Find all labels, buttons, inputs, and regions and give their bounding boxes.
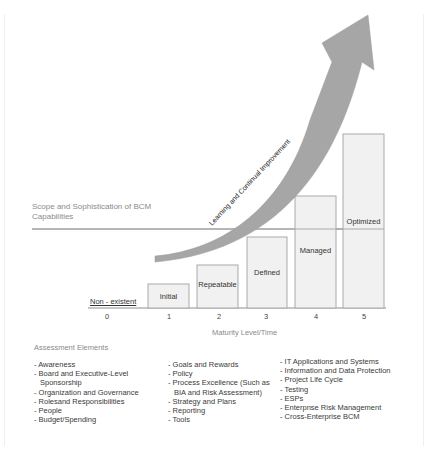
list-item: - Organization and Governance bbox=[34, 388, 139, 397]
list-item: - Project Life Cycle bbox=[280, 375, 390, 384]
list-item: Sponsorship bbox=[34, 378, 139, 387]
y-axis-label: Scope and Sophistication of BCM Capabili… bbox=[32, 202, 152, 222]
list-item: - Board and Executive-Level bbox=[34, 369, 139, 378]
arrow-label: Learning and Continual Improvement bbox=[208, 138, 292, 228]
list-item: - Process Excellence (Such as bbox=[168, 378, 270, 387]
improvement-arrow-icon bbox=[155, 15, 374, 262]
level-3-label: Defined bbox=[247, 268, 287, 277]
tick-2: 2 bbox=[213, 312, 225, 321]
tick-3: 3 bbox=[260, 312, 272, 321]
list-item: - Cross-Enterprise BCM bbox=[280, 412, 390, 421]
tick-4: 4 bbox=[310, 312, 322, 321]
list-item: - Enterpnse Risk Management bbox=[280, 403, 390, 412]
list-item: - IT Applications and Systems bbox=[280, 357, 390, 366]
x-axis-label: Maturity Level/Time bbox=[212, 328, 277, 337]
list-item: - People bbox=[34, 406, 139, 415]
list-item: - Reporting bbox=[168, 406, 270, 415]
list-item: - ESPs bbox=[280, 394, 390, 403]
level-5-label: Optimized bbox=[343, 217, 384, 226]
tick-0: 0 bbox=[101, 312, 113, 321]
tick-1: 1 bbox=[163, 312, 175, 321]
assessment-title: Assessment Elements bbox=[34, 343, 108, 352]
tick-5: 5 bbox=[358, 312, 370, 321]
list-item: - Budget/Spending bbox=[34, 415, 139, 424]
list-item: - Awareness bbox=[34, 360, 139, 369]
list-item: - Goals and Rewards bbox=[168, 360, 270, 369]
assessment-column-2: - Goals and Rewards - Policy - Process E… bbox=[168, 360, 270, 424]
assessment-column-1: - Awareness - Board and Executive-Level … bbox=[34, 360, 139, 424]
level-1-label: Initial bbox=[148, 292, 189, 301]
list-item: - Policy bbox=[168, 369, 270, 378]
list-item: - Information and Data Protection bbox=[280, 366, 390, 375]
level-2-label: Repeatable bbox=[197, 280, 238, 289]
list-item: - Tools bbox=[168, 415, 270, 424]
list-item: - Testing bbox=[280, 385, 390, 394]
list-item: - Rolesand Responsibilities bbox=[34, 397, 139, 406]
level-0-label: Non - existent bbox=[90, 297, 136, 306]
list-item: - Strategy and Plans bbox=[168, 397, 270, 406]
assessment-column-3: - IT Applications and Systems - Informat… bbox=[280, 357, 390, 421]
list-item: BIA and Risk Assessment) bbox=[168, 388, 270, 397]
level-4-label: Managed bbox=[295, 246, 336, 255]
